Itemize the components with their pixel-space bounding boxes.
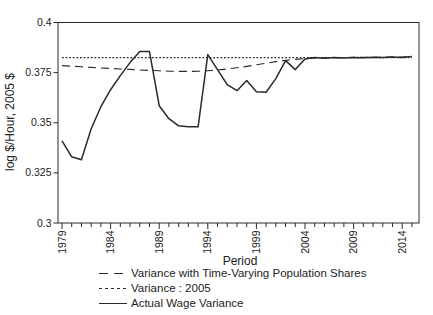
y-tick-label: 0.35: [31, 116, 52, 128]
x-tick-label: 2014: [396, 230, 408, 254]
y-tick-label: 0.375: [25, 66, 51, 78]
legend: Variance with Time-Varying Population Sh…: [99, 266, 366, 311]
legend-item-variance-2005: Variance : 2005: [99, 281, 366, 296]
y-axis-ticks: 0.40.3750.350.3250.3: [25, 16, 58, 229]
y-tick-label: 0.325: [25, 166, 51, 178]
x-tick-label: 1989: [153, 230, 165, 254]
dotted-line-sample: [99, 288, 127, 290]
plot-area-border: [58, 23, 419, 224]
solid-line-sample: [99, 303, 127, 305]
dashed-line-sample: [99, 273, 127, 275]
x-tick-label: 1979: [56, 230, 68, 254]
x-tick-label: 1994: [201, 230, 213, 254]
data-series-lines: [62, 52, 412, 160]
y-tick-label: 0.3: [37, 217, 52, 229]
wage-variance-chart: 0.40.3750.350.3250.3 1979198419891994199…: [0, 0, 433, 315]
legend-label: Variance : 2005: [131, 281, 211, 296]
x-tick-label: 2004: [299, 230, 311, 254]
legend-item-actual-wage-variance: Actual Wage Variance: [99, 296, 366, 311]
x-tick-label: 2009: [347, 230, 359, 254]
y-tick-label: 0.4: [37, 16, 52, 28]
x-tick-label: 1999: [250, 230, 262, 254]
legend-label: Variance with Time-Varying Population Sh…: [131, 266, 366, 281]
plot-frame: [58, 23, 419, 224]
legend-item-time-varying-variance: Variance with Time-Varying Population Sh…: [99, 266, 366, 281]
series-line-dashed: [62, 57, 412, 72]
y-axis-title: log $/Hour, 2005 $: [3, 73, 17, 171]
x-tick-label: 1984: [104, 230, 116, 254]
legend-label: Actual Wage Variance: [131, 296, 244, 311]
x-axis-ticks: 19791984198919941999200420092014: [56, 223, 412, 254]
